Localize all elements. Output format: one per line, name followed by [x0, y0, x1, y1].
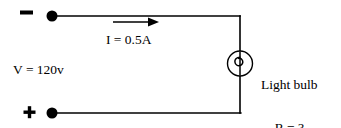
circuit-diagram-figure: I = 0.5A V = 120v Light bulb R = ? [0, 0, 341, 128]
positive-terminal-dot [47, 108, 58, 119]
current-direction-arrow [113, 17, 159, 26]
current-label: I = 0.5A [106, 33, 151, 47]
light-bulb-symbol [228, 51, 253, 76]
light-bulb-label-group: Light bulb R = ? [261, 50, 318, 128]
negative-terminal-sign [20, 11, 33, 15]
light-bulb-name-label: Light bulb [261, 78, 318, 92]
negative-terminal-dot [47, 11, 58, 22]
light-bulb-resistance-label: R = ? [261, 121, 318, 128]
positive-terminal-sign [24, 106, 36, 118]
voltage-label: V = 120v [13, 63, 64, 77]
